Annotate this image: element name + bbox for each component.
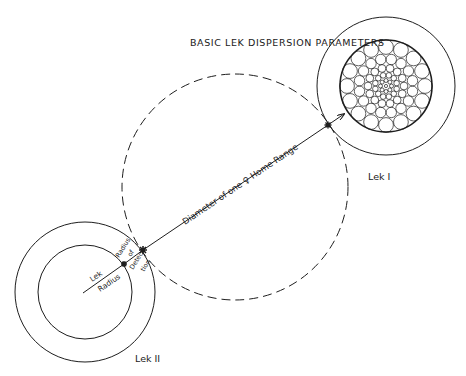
territory-circle	[340, 79, 355, 94]
territory-circle	[388, 88, 392, 92]
territory-circle	[358, 96, 368, 106]
star-marker-lek1	[325, 122, 332, 129]
territory-circle	[351, 106, 366, 121]
territory-circle	[407, 86, 417, 96]
lek-2: Lek II	[15, 222, 160, 364]
territory-circle	[354, 76, 364, 86]
territory-circle	[393, 96, 401, 104]
territory-circle	[379, 118, 394, 133]
territory-circle	[386, 100, 394, 108]
territory-circle	[394, 43, 409, 58]
territory-circle	[386, 107, 396, 117]
star-marker-lek2-inner	[121, 261, 127, 267]
territory-circle	[396, 103, 406, 113]
territory-circle	[343, 94, 358, 109]
territory-circle	[371, 68, 379, 76]
territory-circle	[415, 64, 430, 79]
lek-1-label: Lek I	[368, 171, 390, 182]
territory-circle	[386, 94, 392, 100]
territory-circle	[386, 65, 394, 73]
territory-circle	[380, 80, 384, 84]
territory-circle	[384, 90, 388, 94]
home-range-diameter-label: Diameter of one ♀ Home Range	[181, 142, 300, 227]
lek-dispersion-diagram: BASIC LEK DISPERSION PARAMETERS Lek I Le…	[0, 0, 466, 376]
territory-circle	[354, 86, 364, 96]
territory-circle	[378, 100, 386, 108]
territory-circle	[407, 76, 417, 86]
territory-circle	[351, 51, 366, 66]
territory-circle	[388, 80, 392, 84]
diagram-title: BASIC LEK DISPERSION PARAMETERS	[190, 37, 385, 48]
territory-circle	[394, 80, 400, 86]
territory-circle	[376, 107, 386, 117]
territory-circle	[400, 82, 408, 90]
territory-circle	[398, 74, 406, 82]
diameter-label-post: Home Range	[248, 142, 299, 181]
territory-circle	[376, 54, 386, 64]
territory-circle	[403, 66, 413, 76]
lek-1-inner-circle	[340, 40, 432, 132]
territory-circle	[418, 79, 433, 94]
territory-circle	[373, 86, 379, 92]
territory-circle	[415, 94, 430, 109]
territory-circle	[343, 64, 358, 79]
territory-circle	[394, 115, 409, 130]
territory-circle	[406, 106, 421, 121]
territory-circle	[366, 90, 374, 98]
territory-circle	[366, 58, 376, 68]
territory-circle	[384, 79, 388, 83]
territory-circle	[378, 65, 386, 73]
territory-circle	[406, 51, 421, 66]
lek-2-label: Lek II	[135, 353, 160, 364]
territory-circle	[379, 84, 383, 88]
territory-circle	[364, 82, 372, 90]
diameter-label-pre: Diameter of one	[181, 179, 245, 226]
territory-circle	[380, 73, 386, 79]
territory-circle	[390, 84, 394, 88]
territory-circle	[364, 115, 379, 130]
territory-circle	[384, 84, 387, 87]
territory-circle	[380, 88, 384, 92]
territory-circle	[386, 54, 396, 64]
